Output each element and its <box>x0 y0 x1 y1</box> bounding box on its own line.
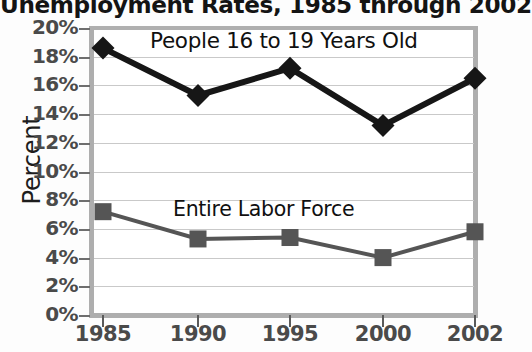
data-point-marker <box>92 37 115 60</box>
data-point-marker <box>464 67 487 90</box>
data-point-marker <box>95 203 112 220</box>
data-point-marker <box>190 230 207 247</box>
series-label-teens: People 16 to 19 Years Old <box>150 28 418 53</box>
data-point-marker <box>187 84 210 107</box>
data-point-marker <box>375 249 392 266</box>
data-point-marker <box>282 229 299 246</box>
series-label-labor: Entire Labor Force <box>173 197 354 221</box>
data-point-marker <box>467 223 484 240</box>
